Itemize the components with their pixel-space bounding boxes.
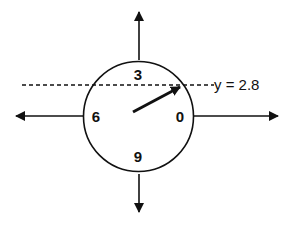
dial-label-bottom: 9 <box>134 148 142 165</box>
dial-label-right: 0 <box>176 108 184 125</box>
reference-line-label: y = 2.8 <box>214 76 259 93</box>
dial-label-top: 3 <box>134 66 142 83</box>
pointer-arrow <box>133 87 180 112</box>
dial-diagram: 3 6 0 9 y = 2.8 <box>0 0 291 230</box>
dial-label-left: 6 <box>92 108 100 125</box>
